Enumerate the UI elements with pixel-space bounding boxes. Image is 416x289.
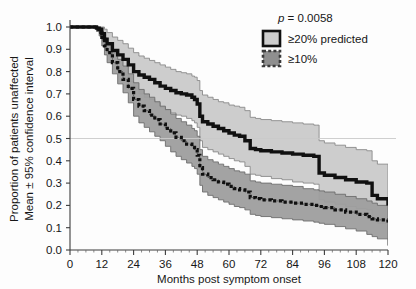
- y-tick-label: 0.3: [46, 177, 62, 189]
- y-tick-label: 0.4: [46, 155, 63, 167]
- y-tick-label: 0.5: [46, 133, 62, 145]
- y-tick-label: 0.2: [46, 199, 62, 211]
- p-value-number: = 0.0058: [284, 12, 332, 24]
- y-tick-label: 0.7: [46, 88, 62, 100]
- x-tick-label: 72: [254, 258, 267, 270]
- x-tick-label: 12: [95, 258, 108, 270]
- x-tick-label: 84: [286, 258, 299, 270]
- legend-swatch-20-percent: [263, 31, 280, 46]
- x-tick-label: 120: [378, 258, 397, 270]
- x-tick-label: 60: [223, 258, 236, 270]
- x-axis-title: Months post symptom onset: [157, 273, 302, 285]
- x-tick-label: 48: [191, 258, 204, 270]
- x-tick-label: 108: [347, 258, 366, 270]
- y-tick-label: 0.9: [46, 43, 62, 55]
- y-axis-title-line1: Proportion of patients unaffected: [8, 56, 20, 222]
- chart-canvas: 01224364860728496108120 0.00.10.20.30.40…: [0, 0, 416, 289]
- y-tick-label: 0.8: [46, 66, 62, 78]
- legend-label-10-percent: ≥10%: [288, 53, 317, 65]
- x-tick-label: 0: [67, 258, 73, 270]
- survival-curve-figure: 01224364860728496108120 0.00.10.20.30.40…: [0, 0, 416, 289]
- y-tick-label: 0.1: [46, 222, 62, 234]
- legend-swatch-10-percent: [263, 51, 280, 66]
- y-tick-label: 0.0: [46, 244, 62, 256]
- x-tick-label: 36: [159, 258, 172, 270]
- p-value-annotation: p = 0.0058: [277, 12, 333, 24]
- y-tick-label: 1.0: [46, 21, 62, 33]
- y-axis-title-line2: Mean ± 95% confidence interval: [23, 57, 35, 221]
- x-tick-label: 24: [127, 258, 140, 270]
- legend-label-20-percent: ≥20% predicted: [288, 33, 368, 45]
- y-tick-label: 0.6: [46, 110, 62, 122]
- x-tick-label: 96: [318, 258, 331, 270]
